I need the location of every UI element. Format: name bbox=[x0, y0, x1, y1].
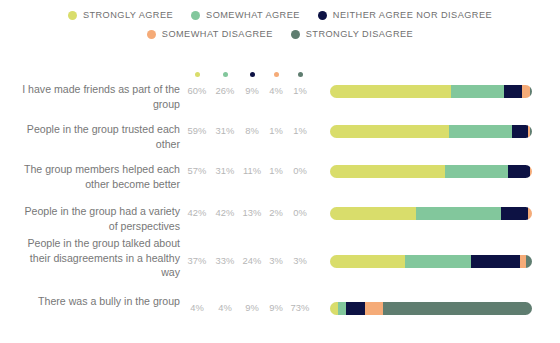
legend-label: SOMEWHAT DISAGREE bbox=[162, 30, 273, 39]
row-percentages: 4%4%9%9%73% bbox=[184, 301, 316, 315]
percent-value-strongly-disagree: 0% bbox=[287, 206, 313, 220]
percent-value-strongly-disagree: 0% bbox=[287, 164, 313, 178]
bar-segment-somewhat-agree bbox=[449, 125, 512, 138]
stacked-bar bbox=[330, 255, 532, 268]
percent-value-strongly-agree: 4% bbox=[184, 301, 210, 315]
percent-value-neither-agree-nor-disagree: 24% bbox=[239, 254, 265, 268]
bar-segment-somewhat-agree bbox=[445, 165, 508, 178]
row-label: People in the group trusted each other bbox=[14, 122, 180, 151]
percent-value-somewhat-disagree: 4% bbox=[263, 84, 289, 98]
bar-segment-somewhat-disagree bbox=[522, 85, 530, 98]
legend-label: NEITHER AGREE NOR DISAGREE bbox=[333, 11, 492, 20]
chart-legend: STRONGLY AGREE SOMEWHAT AGREE NEITHER AG… bbox=[0, 6, 560, 44]
percent-value-neither-agree-nor-disagree: 11% bbox=[239, 164, 265, 178]
bar-segment-strongly-disagree bbox=[530, 125, 532, 138]
percent-value-strongly-agree: 57% bbox=[184, 164, 210, 178]
percent-value-strongly-disagree: 1% bbox=[287, 84, 313, 98]
bar-segment-somewhat-agree bbox=[338, 302, 346, 315]
percent-value-neither-agree-nor-disagree: 9% bbox=[239, 84, 265, 98]
percent-value-somewhat-disagree: 9% bbox=[263, 301, 289, 315]
stacked-bar bbox=[330, 85, 532, 98]
row-label: I have made friends as part of the group bbox=[14, 82, 180, 111]
bar-segment-neither-agree-nor-disagree bbox=[501, 207, 528, 220]
row-label: People in the group had a variety of per… bbox=[14, 204, 180, 233]
stacked-bar bbox=[330, 207, 532, 220]
column-header-somewhat-disagree bbox=[263, 63, 289, 81]
row-percentages: 42%42%13%2%0% bbox=[184, 206, 316, 220]
bar-segment-strongly-disagree bbox=[383, 302, 532, 315]
percent-value-somewhat-agree: 4% bbox=[212, 301, 238, 315]
legend-row-1: STRONGLY AGREE SOMEWHAT AGREE NEITHER AG… bbox=[0, 6, 560, 25]
legend-dot-icon bbox=[68, 11, 77, 20]
legend-dot-icon bbox=[195, 72, 200, 77]
row-percentages: 57%31%11%1%0% bbox=[184, 164, 316, 178]
legend-dot-icon bbox=[318, 11, 327, 20]
stacked-bar bbox=[330, 125, 532, 138]
percent-value-somewhat-agree: 26% bbox=[212, 84, 238, 98]
legend-dot-icon bbox=[191, 11, 200, 20]
bar-segment-strongly-agree bbox=[330, 255, 405, 268]
legend-item-somewhat-disagree: SOMEWHAT DISAGREE bbox=[147, 30, 273, 39]
column-header-somewhat-agree bbox=[212, 63, 238, 81]
percent-value-somewhat-agree: 33% bbox=[212, 254, 238, 268]
row-percentages: 37%33%24%3%3% bbox=[184, 254, 316, 268]
legend-row-2: SOMEWHAT DISAGREE STRONGLY DISAGREE bbox=[0, 25, 560, 44]
percent-value-neither-agree-nor-disagree: 9% bbox=[239, 301, 265, 315]
percent-value-neither-agree-nor-disagree: 13% bbox=[239, 206, 265, 220]
bar-segment-somewhat-disagree bbox=[365, 302, 383, 315]
column-header-strongly-agree bbox=[184, 63, 210, 81]
legend-item-strongly-disagree: STRONGLY DISAGREE bbox=[291, 30, 413, 39]
bar-segment-strongly-agree bbox=[330, 85, 451, 98]
percent-value-strongly-agree: 60% bbox=[184, 84, 210, 98]
legend-item-strongly-agree: STRONGLY AGREE bbox=[68, 11, 173, 20]
legend-dot-icon bbox=[250, 72, 255, 77]
legend-dot-icon bbox=[147, 30, 156, 39]
percent-value-strongly-disagree: 1% bbox=[287, 124, 313, 138]
bar-segment-neither-agree-nor-disagree bbox=[508, 165, 530, 178]
legend-dot-icon bbox=[298, 72, 303, 77]
row-label: The group members helped each other beco… bbox=[14, 162, 180, 191]
legend-label: SOMEWHAT AGREE bbox=[206, 11, 300, 20]
legend-item-somewhat-agree: SOMEWHAT AGREE bbox=[191, 11, 300, 20]
column-header-strongly-disagree bbox=[287, 63, 313, 81]
legend-item-neither-agree-nor-disagree: NEITHER AGREE NOR DISAGREE bbox=[318, 11, 492, 20]
percent-value-strongly-disagree: 73% bbox=[287, 301, 313, 315]
bar-segment-neither-agree-nor-disagree bbox=[512, 125, 528, 138]
bar-segment-strongly-agree bbox=[330, 302, 338, 315]
bar-segment-strongly-agree bbox=[330, 207, 416, 220]
percent-value-somewhat-disagree: 2% bbox=[263, 206, 289, 220]
bar-segment-strongly-disagree bbox=[530, 85, 532, 98]
bar-segment-neither-agree-nor-disagree bbox=[346, 302, 364, 315]
percent-column-headers bbox=[184, 63, 316, 75]
percent-value-somewhat-disagree: 3% bbox=[263, 254, 289, 268]
legend-dot-icon bbox=[274, 72, 279, 77]
legend-dot-icon bbox=[223, 72, 228, 77]
percent-value-somewhat-disagree: 1% bbox=[263, 164, 289, 178]
legend-label: STRONGLY DISAGREE bbox=[306, 30, 413, 39]
bar-segment-somewhat-disagree bbox=[528, 207, 532, 220]
percent-value-strongly-agree: 42% bbox=[184, 206, 210, 220]
bar-segment-neither-agree-nor-disagree bbox=[504, 85, 522, 98]
row-percentages: 59%31%8%1%1% bbox=[184, 124, 316, 138]
row-label: People in the group talked about their d… bbox=[14, 236, 180, 280]
bar-segment-somewhat-agree bbox=[405, 255, 472, 268]
column-header-neither-agree-nor-disagree bbox=[239, 63, 265, 81]
legend-dot-icon bbox=[291, 30, 300, 39]
bar-segment-neither-agree-nor-disagree bbox=[471, 255, 519, 268]
percent-value-strongly-disagree: 3% bbox=[287, 254, 313, 268]
stacked-bar bbox=[330, 302, 532, 315]
legend-label: STRONGLY AGREE bbox=[83, 11, 173, 20]
percent-value-strongly-agree: 59% bbox=[184, 124, 210, 138]
stacked-bar bbox=[330, 165, 532, 178]
bar-segment-somewhat-disagree bbox=[530, 165, 532, 178]
percent-value-strongly-agree: 37% bbox=[184, 254, 210, 268]
percent-value-somewhat-agree: 31% bbox=[212, 124, 238, 138]
percent-value-somewhat-agree: 42% bbox=[212, 206, 238, 220]
bar-segment-strongly-agree bbox=[330, 165, 445, 178]
percent-value-neither-agree-nor-disagree: 8% bbox=[239, 124, 265, 138]
percent-value-somewhat-disagree: 1% bbox=[263, 124, 289, 138]
bar-segment-strongly-agree bbox=[330, 125, 449, 138]
percent-value-somewhat-agree: 31% bbox=[212, 164, 238, 178]
bar-segment-strongly-disagree bbox=[526, 255, 532, 268]
bar-segment-somewhat-agree bbox=[451, 85, 504, 98]
